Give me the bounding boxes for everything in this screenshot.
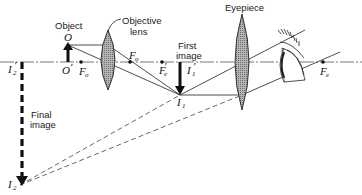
- objective-lens-leader: [108, 19, 121, 31]
- objective-lens-label-line2: lens: [130, 26, 148, 37]
- svg-text:o: o: [85, 71, 89, 79]
- point-fo-left-label: F o: [78, 65, 89, 79]
- point-i2-label: I 2: [7, 178, 17, 192]
- ray-parallel-refracted: [108, 45, 180, 95]
- point-i1-label: I 1: [176, 96, 186, 110]
- point-i1-prime-label: I 1 ′: [186, 60, 196, 78]
- first-image-label-line2: image: [176, 50, 202, 61]
- microscope-diagram: Object Objective lens First image Eyepie…: [0, 0, 362, 195]
- point-o-prime-label: O ′: [62, 61, 73, 76]
- svg-text:o: o: [135, 55, 139, 63]
- svg-text:e: e: [326, 71, 329, 79]
- svg-text:O: O: [62, 64, 70, 76]
- svg-text:2: 2: [13, 184, 17, 192]
- focal-point-fe: [321, 60, 325, 64]
- svg-text:′: ′: [14, 59, 17, 71]
- svg-text:′: ′: [193, 60, 196, 72]
- objective-lens: [101, 30, 115, 90]
- point-o-label: O: [64, 31, 72, 43]
- point-fo-right-label: F o: [128, 49, 139, 63]
- final-image-label-line2: image: [30, 119, 56, 130]
- svg-text:′: ′: [70, 61, 73, 73]
- eyepiece-lens: [235, 14, 249, 110]
- objective-lens-label-line1: Objective: [122, 15, 162, 26]
- final-image-arrow-head: [16, 176, 28, 186]
- point-fe-label: F e: [319, 65, 329, 79]
- focal-point-fo-left: [79, 60, 83, 64]
- ray-virtual-2: [20, 95, 242, 185]
- eye-icon: [278, 29, 305, 82]
- eyepiece-label: Eyepiece: [225, 2, 264, 13]
- svg-text:1: 1: [182, 102, 186, 110]
- object-arrow-head: [63, 42, 73, 50]
- object-label: Object: [55, 20, 83, 31]
